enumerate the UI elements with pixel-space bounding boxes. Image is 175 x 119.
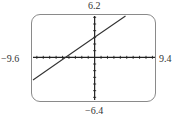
xmin-label: −9.6 (1, 54, 19, 64)
xmax-label: 9.4 (159, 54, 172, 64)
function-line (33, 16, 126, 80)
ymax-label: 6.2 (88, 1, 101, 11)
graph-plot (0, 0, 175, 119)
ymin-label: −6.4 (85, 106, 103, 116)
